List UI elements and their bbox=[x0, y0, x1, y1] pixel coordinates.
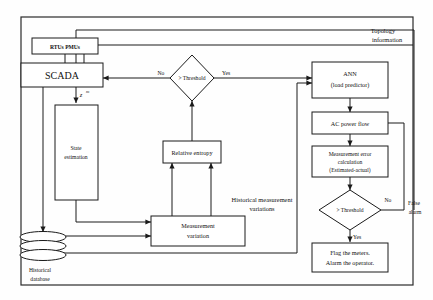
topology-line1: Topology bbox=[371, 27, 396, 34]
edge-label-z-measurement: z m bbox=[79, 89, 90, 98]
node-threshold-bottom-label: > Threshold bbox=[336, 207, 363, 213]
node-state-estimation[interactable]: State estimation bbox=[55, 105, 98, 200]
hist-meas-line2: variations bbox=[249, 205, 275, 212]
annotation-historical-measurement: Historical measurement variations bbox=[232, 196, 293, 212]
annotation-topology-information: Topology information bbox=[371, 27, 403, 43]
edge-state-estimation-to-measvar bbox=[76, 200, 151, 222]
z-symbol: z bbox=[79, 91, 83, 98]
edge-label-bottom-yes: Yes bbox=[353, 234, 361, 240]
node-flag-meters-line1: Flag the meters. bbox=[330, 249, 370, 256]
node-ann-line1: ANN bbox=[343, 70, 357, 77]
node-rtus-pmus[interactable]: RTUs PMUs bbox=[32, 38, 98, 54]
node-threshold-bottom[interactable]: > Threshold bbox=[319, 190, 381, 230]
node-ac-power-flow[interactable]: AC power flow bbox=[312, 112, 388, 134]
edge-label-false-alarm-1: False bbox=[408, 200, 420, 206]
edge-label-top-no: No bbox=[158, 70, 165, 76]
node-historical-database-line1: Historical bbox=[29, 267, 52, 273]
node-measurement-error[interactable]: Measurement error calculation (Estimated… bbox=[312, 146, 388, 177]
node-state-estimation-line2: estimation bbox=[64, 154, 88, 160]
node-threshold-top-label: > Threshold bbox=[178, 75, 205, 81]
node-relative-entropy-label: Relative entropy bbox=[171, 149, 213, 156]
node-relative-entropy[interactable]: Relative entropy bbox=[163, 141, 221, 163]
node-threshold-top[interactable]: > Threshold bbox=[170, 55, 214, 101]
node-measurement-variation[interactable]: Measurement variation bbox=[151, 216, 245, 246]
node-ann[interactable]: ANN (load predictor) bbox=[312, 62, 388, 98]
node-measurement-variation-line1: Measurement bbox=[181, 222, 215, 229]
z-superscript: m bbox=[86, 89, 90, 94]
flowchart-svg: RTUs PMUs SCADA z m State estimation > T… bbox=[0, 0, 433, 300]
edge-label-bottom-no: No bbox=[385, 197, 392, 203]
node-state-estimation-line1: State bbox=[70, 145, 82, 151]
topology-line2: information bbox=[372, 36, 403, 43]
node-ann-line2: (load predictor) bbox=[331, 81, 370, 89]
edge-label-top-yes: Yes bbox=[222, 70, 230, 76]
hist-meas-line1: Historical measurement bbox=[232, 196, 293, 203]
edge-label-false-alarm-2: alarm bbox=[409, 209, 422, 215]
node-measurement-error-line2: calculation bbox=[338, 159, 363, 165]
node-measurement-error-line1: Measurement error bbox=[329, 151, 372, 157]
node-historical-database-line2: database bbox=[30, 276, 50, 282]
node-rtus-pmus-label: RTUs PMUs bbox=[50, 44, 81, 50]
node-historical-database[interactable]: Historical database bbox=[20, 232, 66, 283]
diagram-page: RTUs PMUs SCADA z m State estimation > T… bbox=[0, 0, 433, 300]
node-scada-label: SCADA bbox=[45, 70, 80, 81]
node-measurement-variation-line2: variation bbox=[187, 232, 209, 239]
node-flag-meters-line2: Alarm the operator. bbox=[326, 259, 375, 266]
node-measurement-error-line3: (Estimated-actual) bbox=[329, 167, 370, 174]
node-ac-power-flow-label: AC power flow bbox=[331, 120, 370, 127]
node-flag-meters[interactable]: Flag the meters. Alarm the operator. bbox=[312, 243, 388, 272]
node-scada[interactable]: SCADA bbox=[21, 63, 103, 87]
